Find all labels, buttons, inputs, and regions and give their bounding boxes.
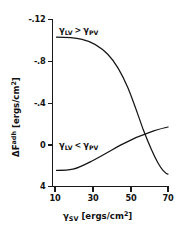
y-tick-label: 4 <box>40 181 46 191</box>
subscript-lv: LV <box>65 29 73 36</box>
units-close-bracket: ] <box>128 211 132 221</box>
x-tick-labels: 10 30 50 70 <box>50 193 174 203</box>
operator-less-than: < <box>75 141 82 150</box>
subscript-pv: PV <box>89 144 99 151</box>
x-tick-label: 10 <box>50 193 61 203</box>
annotation-lower-text: γLV<γPV <box>59 140 99 151</box>
x-tick-label: 70 <box>163 193 174 203</box>
y-tick-label: 0 <box>40 140 46 150</box>
annotation-lower: γLV<γPV <box>59 140 99 151</box>
y-tick-label: -.8 <box>34 56 46 66</box>
units-open-bracket: [ergs/cm <box>11 86 21 128</box>
y-tick-label: -.4 <box>34 98 46 108</box>
y-tick-labels: -.12 -.8 -.4 0 4 <box>28 14 46 191</box>
subscript-sv: SV <box>69 215 79 223</box>
superscript-adh: adh <box>10 131 18 145</box>
y-tick-marks <box>48 20 53 187</box>
y-axis-title-group: ΔFadh[ergs/cm2] <box>10 77 21 157</box>
x-axis-title-group: γSV[ergs/cm2] <box>63 210 132 223</box>
x-tick-marks <box>55 187 168 192</box>
y-axis-title: ΔFadh[ergs/cm2] <box>10 77 21 157</box>
subscript-pv: PV <box>89 29 99 36</box>
figure-container: -.12 -.8 -.4 0 4 10 30 50 70 γLV>γ <box>0 0 190 230</box>
annotation-upper: γLV>γPV <box>59 25 99 36</box>
axes-frame <box>53 20 169 187</box>
y-tick-label: -.12 <box>28 14 45 24</box>
units-open-bracket: [ergs/cm <box>81 211 123 221</box>
subscript-lv: LV <box>65 144 73 151</box>
delta-f-symbol: ΔF <box>11 144 21 157</box>
annotation-upper-text: γLV>γPV <box>59 25 99 36</box>
x-tick-label: 50 <box>126 193 137 203</box>
operator-greater-than: > <box>75 26 82 35</box>
x-axis-title: γSV[ergs/cm2] <box>63 210 132 223</box>
units-close-bracket: ] <box>11 77 21 81</box>
x-tick-label: 30 <box>88 193 99 203</box>
plot-svg: -.12 -.8 -.4 0 4 10 30 50 70 γLV>γ <box>0 0 190 230</box>
curve-upper-gamma-lv-greater <box>57 37 169 174</box>
